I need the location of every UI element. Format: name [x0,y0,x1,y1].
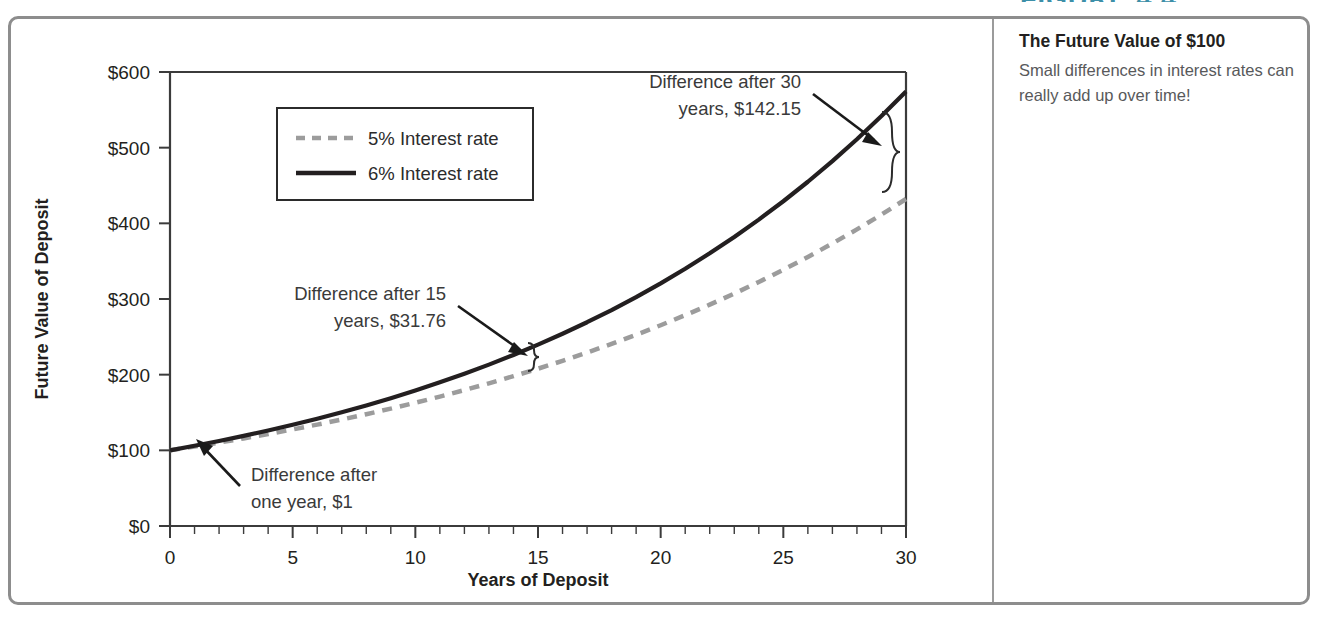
x-tick-label: 25 [773,547,794,568]
caption-body: Small differences in interest rates can … [1019,58,1299,109]
y-tick-label: $200 [108,365,150,386]
x-axis: 051015202530 [165,526,917,568]
legend-label-6-percent: 6% Interest rate [368,163,499,184]
annotation-thirty-line2: years, $142.15 [679,98,801,119]
y-tick-label: $300 [108,289,150,310]
annotation-fifteen-line1: Difference after 15 [294,283,446,304]
annotation-one-year-line2: one year, $1 [251,491,353,512]
figure-number: FIGURE 4.4 [1020,0,1310,2]
caption-title: The Future Value of $100 [1019,30,1299,54]
annotation-one-year: Difference after one year, $1 [196,439,377,512]
y-axis: $0$100$200$300$400$500$600 [108,62,170,537]
chart-region: $0$100$200$300$400$500$600 051015202530 … [8,16,992,605]
x-tick-label: 30 [895,547,916,568]
legend-label-5-percent: 5% Interest rate [368,128,499,149]
y-tick-label: $500 [108,138,150,159]
annotation-fifteen-years: Difference after 15 years, $31.76 [294,283,528,356]
future-value-line-chart: $0$100$200$300$400$500$600 051015202530 … [8,16,992,605]
annotation-thirty-years: Difference after 30 years, $142.15 [649,71,882,146]
chart-legend: 5% Interest rate 6% Interest rate [277,108,533,200]
brace-year-30 [882,112,900,192]
caption-panel: The Future Value of $100 Small differenc… [1019,30,1299,109]
x-tick-label: 10 [405,547,426,568]
x-tick-label: 20 [650,547,671,568]
y-tick-label: $400 [108,213,150,234]
x-tick-label: 5 [287,547,298,568]
annotation-thirty-line1: Difference after 30 [649,71,801,92]
annotation-one-year-line1: Difference after [251,464,377,485]
x-axis-title: Years of Deposit [467,570,608,590]
y-tick-label: $600 [108,62,150,83]
x-tick-label: 15 [527,547,548,568]
panel-divider [992,19,994,602]
x-tick-label: 0 [165,547,176,568]
y-tick-label: $100 [108,440,150,461]
y-tick-label: $0 [129,516,150,537]
series-line-5-interest-rate [170,199,906,450]
annotation-fifteen-line2: years, $31.76 [334,310,446,331]
y-axis-title: Future Value of Deposit [32,198,52,399]
